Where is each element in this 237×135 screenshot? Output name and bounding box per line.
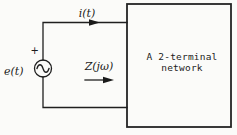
current-arrow-icon: [89, 19, 100, 26]
circuit-figure: A 2-terminal network e(t) + i(t) Z(jω): [0, 0, 237, 135]
source-voltage-label: e(t): [4, 65, 24, 78]
sine-wave-icon: [37, 65, 49, 73]
top-wire: [43, 23, 127, 61]
polarity-plus-label: +: [31, 45, 39, 56]
network-box-label-line2: network: [161, 62, 203, 73]
impedance-label: Z(jω): [84, 60, 114, 73]
circuit-diagram: A 2-terminal network e(t) + i(t) Z(jω): [0, 0, 237, 135]
bottom-wire: [43, 77, 127, 108]
network-box-label-line1: A 2-terminal: [146, 51, 217, 62]
current-label: i(t): [79, 7, 96, 20]
impedance-arrow-icon: [103, 77, 114, 83]
